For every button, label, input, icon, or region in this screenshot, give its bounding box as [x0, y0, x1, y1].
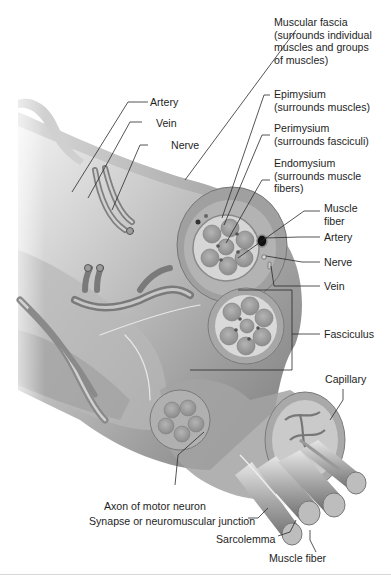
label-vein-left: Vein [156, 117, 177, 130]
label-artery-right: Artery [324, 231, 352, 244]
label-muscular-fascia: Muscular fascia (surrounds individual mu… [274, 16, 372, 66]
label-capillary: Capillary [325, 373, 366, 386]
label-vein-right: Vein [324, 280, 345, 293]
label-muscle-fiber-right: Muscle fiber [324, 202, 358, 227]
nerve-cross-section [262, 255, 266, 259]
label-sarcolemma: Sarcolemma [216, 533, 275, 546]
label-perimysium: Perimysium (surrounds fasciculi) [274, 122, 369, 147]
label-endomysium: Endomysium (surrounds muscle fibers) [274, 157, 361, 195]
label-muscle-fiber-bottom: Muscle fiber [269, 552, 326, 565]
fasciculus-cross-section [208, 288, 284, 364]
label-axon-motor-neuron: Axon of motor neuron [104, 500, 206, 513]
label-nerve-right: Nerve [324, 256, 352, 269]
bottom-divider [0, 574, 391, 575]
muscle-anatomy-figure: Muscular fascia (surrounds individual mu… [0, 0, 391, 580]
label-nerve-left: Nerve [171, 139, 199, 152]
label-epimysium: Epimysium (surrounds muscles) [274, 88, 370, 113]
label-fasciculus: Fasciculus [324, 328, 374, 341]
label-synapse: Synapse or neuromuscular junction [89, 515, 255, 528]
muscle-cross-section [177, 187, 287, 303]
label-artery-left: Artery [150, 96, 178, 109]
vein-cross-section [268, 262, 271, 269]
